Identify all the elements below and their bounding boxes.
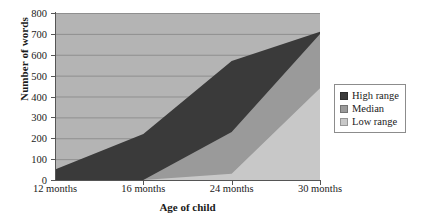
y-tick-label: 800 xyxy=(31,8,47,19)
legend-swatch-icon xyxy=(340,92,348,100)
legend: High rangeMedianLow range xyxy=(334,84,406,133)
x-tick-mark xyxy=(232,181,233,185)
plot-svg xyxy=(55,13,320,180)
plot-area xyxy=(55,13,320,180)
y-tick-label: 100 xyxy=(31,154,47,165)
x-axis-title: Age of child xyxy=(55,201,320,213)
legend-label: Low range xyxy=(352,115,397,128)
legend-item: Median xyxy=(340,102,399,115)
legend-label: High range xyxy=(352,89,399,102)
x-tick-mark xyxy=(320,181,321,185)
x-axis-line xyxy=(55,180,321,181)
x-tick-label: 12 months xyxy=(33,183,77,194)
y-tick-label: 500 xyxy=(31,70,47,81)
y-tick-label: 300 xyxy=(31,112,47,123)
y-tick-label: 200 xyxy=(31,133,47,144)
legend-item: Low range xyxy=(340,115,399,128)
legend-swatch-icon xyxy=(340,105,348,113)
area-chart: Number of words 010020030040050060070080… xyxy=(0,0,426,224)
legend-label: Median xyxy=(352,102,384,115)
legend-swatch-icon xyxy=(340,118,348,126)
y-axis-line xyxy=(55,12,56,181)
y-tick-label: 400 xyxy=(31,91,47,102)
y-tick-label: 600 xyxy=(31,49,47,60)
series-areas xyxy=(55,32,320,180)
x-tick-mark xyxy=(143,181,144,185)
legend-item: High range xyxy=(340,89,399,102)
y-tick-label: 700 xyxy=(31,28,47,39)
